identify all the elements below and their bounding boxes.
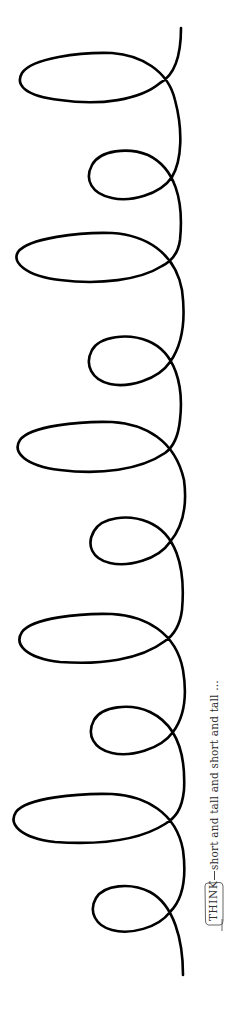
loop-curve-icon [0, 0, 232, 1010]
diagram-canvas: THINK short and tall and short and tall … [0, 0, 232, 1010]
think-label: THINK [207, 881, 219, 921]
caption-row: THINK short and tall and short and tall … [204, 680, 224, 928]
spiral-loop-curve [14, 28, 185, 975]
dash-divider [214, 871, 215, 880]
caption-text: short and tall and short and tall … [208, 680, 220, 870]
